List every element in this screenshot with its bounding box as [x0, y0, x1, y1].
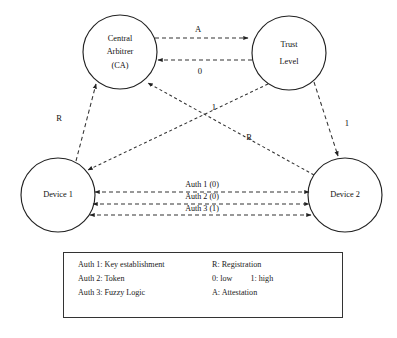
- legend-row: Auth 2: Token 0: low 1: high: [78, 275, 336, 284]
- trust-level-circle[interactable]: [252, 16, 326, 90]
- device-2-label: Device 2: [330, 190, 360, 199]
- central-arbitrer-label-line3: (CA): [111, 61, 128, 70]
- edge-auth-2-label: Auth 2 (0): [185, 192, 219, 201]
- edge-ca-to-trust: A: [155, 24, 248, 38]
- legend-registration-text: R: Registration: [212, 261, 261, 270]
- edge-auth-1-label: Auth 1 (0): [185, 180, 219, 189]
- edge-trust-to-ca: 0: [158, 60, 252, 76]
- edge-auth-3: Auth 3 (1): [90, 204, 311, 215]
- edge-device1-to-ca-label: R: [56, 113, 62, 123]
- legend-grid: Auth 1: Key establishment R: Registratio…: [78, 261, 336, 298]
- device-1-label: Device 1: [43, 190, 73, 199]
- edge-trust-to-device1-line: [88, 84, 268, 170]
- node-central-arbitrer[interactable]: Central Arbitrer (CA): [83, 15, 157, 89]
- node-device-1[interactable]: Device 1: [21, 158, 95, 232]
- edge-ca-to-trust-label: A: [195, 24, 202, 34]
- edge-auth-3-label: Auth 3 (1): [185, 204, 219, 213]
- legend-auth-3-text: Auth 3: Fuzzy Logic: [78, 289, 212, 298]
- edge-device2-to-ca-label: R: [246, 132, 252, 142]
- legend-row: Auth 1: Key establishment R: Registratio…: [78, 261, 336, 270]
- edge-trust-to-device2: 1: [314, 82, 349, 156]
- central-arbitrer-label-line1: Central: [108, 34, 133, 43]
- edge-trust-to-device2-line: [314, 82, 338, 156]
- diagram-canvas: Central Arbitrer (CA) Trust Level Device…: [0, 0, 397, 338]
- legend-box: Auth 1: Key establishment R: Registratio…: [63, 252, 343, 318]
- trust-level-label-line2: Level: [280, 57, 300, 66]
- edge-device1-to-ca-line: [76, 84, 96, 161]
- node-device-2[interactable]: Device 2: [308, 158, 382, 232]
- edge-device1-to-ca: R: [56, 84, 96, 161]
- trust-level-label-line1: Trust: [280, 40, 298, 49]
- edge-device2-to-ca-line: [148, 83, 314, 175]
- edge-trust-to-device1-label: 1: [212, 102, 216, 112]
- legend-low-text: 0: low: [212, 275, 232, 284]
- legend-auth-1-text: Auth 1: Key establishment: [78, 261, 212, 270]
- edge-trust-to-ca-label: 0: [198, 66, 202, 76]
- central-arbitrer-label-line2: Arbitrer: [107, 47, 134, 56]
- legend-row: Auth 3: Fuzzy Logic A: Attestation: [78, 289, 336, 298]
- edge-trust-to-device2-label: 1: [345, 118, 349, 128]
- edge-device2-to-ca: R: [148, 83, 314, 175]
- legend-attestation-text: A: Attestation: [212, 289, 257, 298]
- legend-auth-2-text: Auth 2: Token: [78, 275, 212, 284]
- edge-trust-to-device1: 1: [88, 84, 268, 170]
- edge-auth-2: Auth 2 (0): [93, 192, 309, 204]
- node-trust-level[interactable]: Trust Level: [252, 16, 326, 90]
- legend-high-text: 1: high: [250, 275, 273, 284]
- edge-auth-1: Auth 1 (0): [95, 180, 309, 192]
